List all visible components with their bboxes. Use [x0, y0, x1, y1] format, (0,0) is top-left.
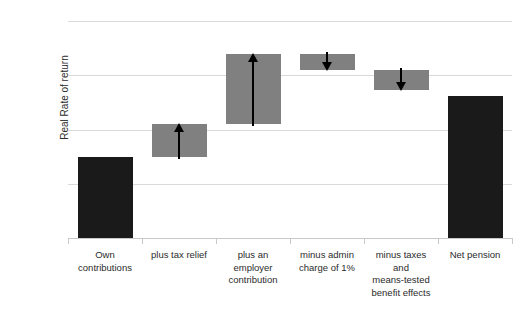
arrow-up-icon — [247, 54, 259, 125]
chart-page: Real Rate of return 0%2%4%6%8% Owncontri… — [0, 0, 529, 326]
x-tick-label-line: contributions — [68, 262, 142, 275]
arrow-down-icon — [321, 54, 333, 70]
x-tick — [290, 238, 291, 244]
x-tick-label-line: plus tax relief — [142, 249, 216, 262]
arrow-up-icon — [173, 124, 185, 157]
gridline-8% — [68, 21, 512, 22]
x-tick-label-line: benefit effects — [364, 287, 438, 300]
x-tick-label-line: charge of 1% — [290, 262, 364, 275]
x-tick-label-5: minus taxesandmeans-testedbenefit effect… — [364, 249, 438, 299]
gridline-4% — [68, 130, 512, 131]
x-tick-label-line: plus an — [216, 249, 290, 262]
arrow-down-icon — [395, 70, 407, 90]
x-tick-label-line: employer — [216, 262, 290, 275]
x-tick — [68, 238, 69, 244]
x-tick-label-line: Own — [68, 249, 142, 262]
bar-1 — [78, 157, 133, 238]
x-tick — [438, 238, 439, 244]
x-tick-label-3: plus anemployercontribution — [216, 249, 290, 287]
x-tick-label-line: Net pension — [438, 249, 512, 262]
x-tick-label-6: Net pension — [438, 249, 512, 262]
x-tick-label-4: minus admincharge of 1% — [290, 249, 364, 274]
x-tick-label-1: Owncontributions — [68, 249, 142, 274]
x-tick-label-line: minus taxes — [364, 249, 438, 262]
gridline-2% — [68, 184, 512, 185]
x-tick — [512, 238, 513, 244]
x-tick-label-line: and — [364, 262, 438, 275]
x-tick — [216, 238, 217, 244]
plot-area: 0%2%4%6%8% — [68, 14, 512, 238]
x-tick — [364, 238, 365, 244]
x-tick-label-2: plus tax relief — [142, 249, 216, 262]
x-tick-label-line: means-tested — [364, 274, 438, 287]
x-tick-label-line: minus admin — [290, 249, 364, 262]
bar-6 — [448, 96, 503, 238]
gridline-6% — [68, 75, 512, 76]
x-tick-label-line: contribution — [216, 274, 290, 287]
x-tick — [142, 238, 143, 244]
